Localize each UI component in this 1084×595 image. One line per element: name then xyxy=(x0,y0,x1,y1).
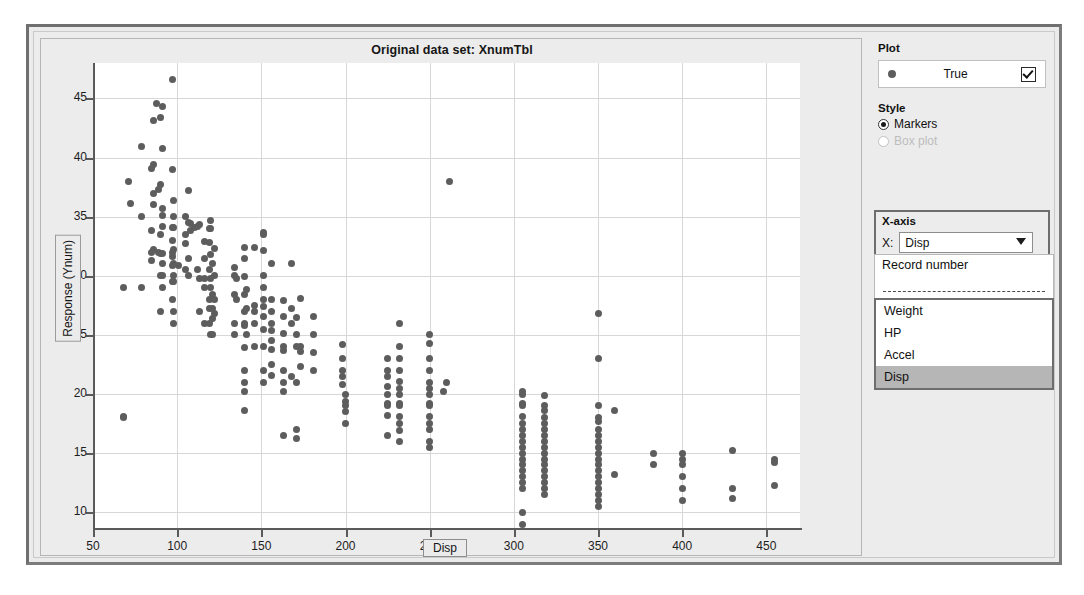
scatter-point xyxy=(241,255,248,262)
scatter-point xyxy=(339,355,346,362)
scatter-point xyxy=(426,426,433,433)
scatter-point xyxy=(396,427,403,434)
scatter-point xyxy=(241,367,248,374)
scatter-point xyxy=(169,296,176,303)
gridline-horizontal xyxy=(93,158,800,159)
dropdown-option-weight[interactable]: Weight xyxy=(876,300,1052,322)
control-panel: Plot True Style Markers Box plot xyxy=(870,38,1054,556)
gridline-horizontal xyxy=(93,512,800,513)
scatter-point xyxy=(159,223,166,230)
scatter-point xyxy=(384,391,391,398)
x-axis-tick-label: 150 xyxy=(238,539,284,553)
scatter-point xyxy=(426,391,433,398)
dropdown-option-hp[interactable]: HP xyxy=(876,322,1052,344)
scatter-point xyxy=(159,205,166,212)
scatter-point xyxy=(185,272,192,279)
scatter-point xyxy=(241,407,248,414)
app-window: Original data set: XnumTbl 1015202530354… xyxy=(26,24,1062,565)
scatter-point xyxy=(207,225,214,232)
scatter-point xyxy=(120,284,127,291)
x-axis-tick-label: 350 xyxy=(575,539,621,553)
scatter-point xyxy=(293,435,300,442)
scatter-point xyxy=(280,379,287,386)
scatter-point xyxy=(260,284,267,291)
x-axis-group-label: X-axis xyxy=(882,215,916,227)
scatter-point xyxy=(541,491,548,498)
style-option-box-plot-label: Box plot xyxy=(894,134,937,148)
scatter-point xyxy=(169,278,176,285)
y-axis-tick-label: 15 xyxy=(47,445,87,459)
scatter-point xyxy=(729,485,736,492)
scatter-point xyxy=(260,379,267,386)
dropdown-list[interactable]: Weight HP Accel Disp xyxy=(874,298,1054,390)
scatter-point xyxy=(595,310,602,317)
scatter-point xyxy=(288,320,295,327)
x-axis-tick xyxy=(514,530,516,537)
gridline-vertical xyxy=(430,63,431,530)
scatter-point xyxy=(206,320,213,327)
scatter-point xyxy=(159,212,166,219)
scatter-point xyxy=(342,391,349,398)
x-axis-group: X-axis X: Disp xyxy=(874,210,1050,258)
radio-markers-icon[interactable] xyxy=(878,119,889,130)
x-axis-tick-label: 50 xyxy=(70,539,116,553)
scatter-point xyxy=(251,308,258,315)
scatter-point xyxy=(241,244,248,251)
legend-row[interactable]: True xyxy=(878,60,1046,88)
scatter-point xyxy=(519,402,526,409)
dropdown-option-accel[interactable]: Accel xyxy=(876,344,1052,366)
dropdown-option-disp[interactable]: Disp xyxy=(876,366,1052,388)
scatter-point xyxy=(650,461,657,468)
scatter-point xyxy=(260,343,267,350)
plot-card: Original data set: XnumTbl 1015202530354… xyxy=(40,38,862,556)
scatter-point xyxy=(127,200,134,207)
y-axis-tick xyxy=(86,158,93,160)
scatter-point xyxy=(138,213,145,220)
x-axis-tick xyxy=(261,530,263,537)
scatter-point xyxy=(241,379,248,386)
scatter-point xyxy=(201,255,208,262)
scatter-point xyxy=(426,444,433,451)
x-axis-combobox[interactable]: Disp xyxy=(899,232,1033,253)
scatter-point xyxy=(650,450,657,457)
scatter-point xyxy=(541,392,548,399)
scatter-point xyxy=(233,275,240,282)
x-axis-tick xyxy=(430,530,432,537)
dropdown-option-record-number[interactable]: Record number xyxy=(875,255,1053,275)
scatter-point xyxy=(679,473,686,480)
gridline-horizontal xyxy=(93,217,800,218)
scatter-point xyxy=(297,363,304,370)
y-axis-tick xyxy=(86,217,93,219)
scatter-point xyxy=(125,178,132,185)
gridline-horizontal xyxy=(93,453,800,454)
scatter-point xyxy=(426,402,433,409)
x-axis-tick xyxy=(766,530,768,537)
scatter-point xyxy=(150,201,157,208)
x-axis-tick xyxy=(177,530,179,537)
scatter-point xyxy=(182,240,189,247)
x-axis-tick-label: 100 xyxy=(154,539,200,553)
scatter-point xyxy=(194,266,201,273)
scatter-point xyxy=(231,264,238,271)
scatter-point xyxy=(185,255,192,262)
scatter-point xyxy=(169,253,176,260)
plot-axes-area[interactable]: 1015202530354045501001502002503003504004… xyxy=(93,63,800,530)
scatter-point xyxy=(148,227,155,234)
dropdown-separator xyxy=(883,291,1045,292)
scatter-point xyxy=(342,408,349,415)
legend-checkbox[interactable] xyxy=(1021,67,1036,82)
chevron-down-icon[interactable] xyxy=(1016,238,1026,245)
scatter-point xyxy=(384,355,391,362)
style-option-markers[interactable]: Markers xyxy=(878,117,937,131)
scatter-point xyxy=(170,320,177,327)
scatter-point xyxy=(396,378,403,385)
x-field-row: X: Disp xyxy=(882,232,1033,253)
dropdown-top-section[interactable]: Record number xyxy=(874,254,1054,300)
scatter-point xyxy=(196,308,203,315)
scatter-point xyxy=(251,244,258,251)
scatter-point xyxy=(611,407,618,414)
scatter-point xyxy=(384,383,391,390)
scatter-point xyxy=(241,273,248,280)
plot-title: Original data set: XnumTbl xyxy=(41,43,863,57)
scatter-point xyxy=(159,284,166,291)
